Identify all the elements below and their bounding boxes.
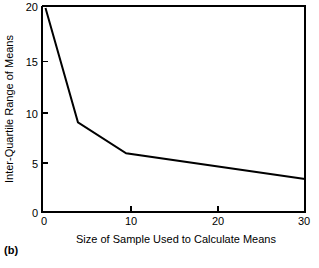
x-tick-label-30: 30 xyxy=(298,215,310,227)
axis-frame xyxy=(42,6,305,212)
x-axis-tick-labels: 0 10 20 30 xyxy=(41,215,310,227)
panel-caption: (b) xyxy=(4,244,18,256)
x-axis-ticks xyxy=(42,206,305,212)
x-tick-label-10: 10 xyxy=(125,215,137,227)
x-axis-title: Size of Sample Used to Calculate Means xyxy=(76,233,276,245)
data-series-line xyxy=(46,8,305,179)
y-tick-label-10: 10 xyxy=(26,108,38,120)
y-axis-ticks xyxy=(42,6,48,212)
y-tick-label-0: 0 xyxy=(32,207,38,219)
y-axis-title: Inter-Quartile Range of Means xyxy=(3,35,15,183)
line-chart: 20 15 10 5 0 0 10 20 30 Size of Sample U… xyxy=(0,0,319,268)
x-tick-label-20: 20 xyxy=(212,215,224,227)
figure-panel-b: 20 15 10 5 0 0 10 20 30 Size of Sample U… xyxy=(0,0,319,268)
y-tick-label-20: 20 xyxy=(26,1,38,13)
y-tick-label-15: 15 xyxy=(26,56,38,68)
plot-frame xyxy=(42,6,305,212)
x-tick-label-0: 0 xyxy=(41,215,47,227)
y-tick-label-5: 5 xyxy=(32,158,38,170)
y-axis-tick-labels: 20 15 10 5 0 xyxy=(26,1,38,219)
